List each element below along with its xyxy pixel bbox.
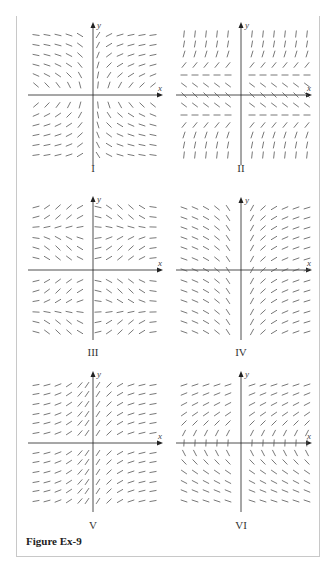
slope-segment bbox=[139, 256, 145, 259]
slope-segment bbox=[293, 237, 300, 239]
slope-segment bbox=[227, 41, 228, 48]
slope-segment bbox=[139, 44, 146, 45]
slope-segment bbox=[128, 422, 135, 424]
slope-segment bbox=[251, 132, 253, 139]
slope-segment bbox=[128, 432, 135, 434]
slope-segment bbox=[260, 320, 265, 325]
panel-label-VI: VI bbox=[235, 519, 247, 531]
x-axis-arrow-icon bbox=[157, 268, 163, 273]
slope-segment bbox=[77, 143, 83, 147]
slope-segment bbox=[181, 500, 188, 502]
panel-label-III: III bbox=[88, 346, 99, 358]
slope-segment bbox=[77, 215, 83, 218]
slope-segment bbox=[128, 73, 134, 77]
slope-segment bbox=[294, 460, 299, 465]
slope-segment bbox=[203, 384, 210, 386]
slope-segment bbox=[44, 246, 50, 250]
slope-segment bbox=[250, 205, 253, 211]
slope-segment bbox=[271, 206, 277, 210]
slope-segment bbox=[150, 413, 157, 414]
slope-segment bbox=[150, 403, 157, 404]
slope-segment bbox=[150, 322, 157, 323]
slope-segment bbox=[78, 122, 82, 127]
slope-segment bbox=[128, 299, 134, 303]
slope-segment bbox=[78, 382, 83, 387]
slope-segment bbox=[44, 237, 50, 240]
slope-segment bbox=[95, 238, 102, 239]
slope-segment bbox=[55, 490, 62, 493]
slope-segment bbox=[106, 215, 112, 219]
slope-segment bbox=[215, 430, 218, 436]
slope-segment bbox=[249, 103, 255, 107]
slope-segment bbox=[33, 290, 40, 292]
slope-segment bbox=[182, 122, 186, 127]
slope-segment bbox=[226, 62, 230, 67]
slope-segment bbox=[304, 311, 311, 313]
slope-segment bbox=[226, 278, 230, 284]
slope-segment bbox=[192, 393, 198, 396]
slope-segment bbox=[293, 480, 299, 483]
slope-segment bbox=[194, 41, 195, 48]
slope-segment bbox=[78, 498, 83, 503]
slope-segment bbox=[78, 72, 81, 78]
slope-segment bbox=[204, 62, 208, 67]
slope-segment bbox=[192, 83, 198, 87]
slope-segment bbox=[206, 152, 207, 159]
slope-segment bbox=[271, 83, 277, 87]
slope-segment bbox=[107, 489, 112, 494]
slope-segment bbox=[150, 258, 157, 259]
slope-segment bbox=[274, 152, 275, 159]
slope-segment bbox=[293, 290, 300, 292]
slope-segment bbox=[33, 247, 40, 249]
slope-segment bbox=[307, 31, 308, 38]
slope-segment bbox=[204, 450, 207, 456]
slope-segment bbox=[44, 461, 51, 463]
slope-segment bbox=[44, 205, 50, 209]
slope-segment bbox=[85, 391, 89, 397]
slope-segment bbox=[282, 500, 289, 502]
slope-segment bbox=[67, 82, 70, 88]
slope-segment bbox=[214, 393, 220, 396]
slope-segment bbox=[251, 51, 253, 58]
slope-segment bbox=[98, 102, 99, 109]
slope-segment bbox=[150, 432, 157, 433]
slope-segment bbox=[203, 289, 209, 292]
y-axis-label: y bbox=[96, 20, 101, 30]
slope-segment bbox=[96, 420, 100, 426]
slope-segment bbox=[107, 63, 112, 68]
slope-segment bbox=[78, 401, 83, 406]
slope-segment bbox=[214, 279, 219, 283]
slope-segment bbox=[304, 321, 311, 323]
slope-segment bbox=[85, 430, 89, 436]
slope-segment bbox=[33, 321, 40, 323]
slope-segment bbox=[66, 279, 72, 283]
slope-segment bbox=[150, 155, 157, 156]
slope-segment bbox=[66, 412, 72, 416]
slope-segment bbox=[251, 41, 252, 48]
slope-segment bbox=[33, 83, 38, 88]
slope-segment bbox=[272, 62, 276, 67]
slope-segment bbox=[203, 500, 210, 502]
slope-segment bbox=[181, 331, 188, 333]
slope-segment bbox=[33, 64, 40, 66]
slope-segment bbox=[193, 122, 197, 127]
slope-segment bbox=[55, 226, 62, 228]
slope-segment bbox=[55, 34, 62, 36]
slope-segment bbox=[106, 312, 113, 313]
slope-segment bbox=[33, 403, 40, 404]
slope-segment bbox=[273, 142, 274, 149]
slope-segment bbox=[106, 133, 112, 137]
slope-segment bbox=[139, 312, 146, 313]
slope-segment bbox=[273, 51, 275, 58]
slope-segment bbox=[33, 238, 40, 239]
slope-segment bbox=[150, 144, 157, 145]
slope-segment bbox=[117, 256, 122, 260]
slope-segment bbox=[96, 391, 100, 397]
slope-segment bbox=[226, 450, 229, 456]
slope-segment bbox=[66, 246, 71, 251]
slope-segment bbox=[250, 319, 253, 325]
slope-segment bbox=[214, 289, 219, 293]
slope-segment bbox=[183, 132, 185, 139]
slope-segment bbox=[203, 402, 209, 405]
slope-segment bbox=[305, 122, 309, 127]
